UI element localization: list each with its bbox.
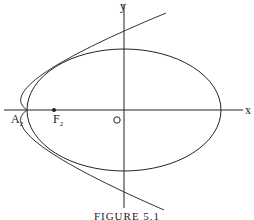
vertex-label: A2 bbox=[11, 113, 23, 128]
figure-caption: FIGURE 5.1 bbox=[0, 210, 254, 220]
parabola-curve bbox=[21, 13, 166, 210]
figure-canvas bbox=[0, 0, 254, 220]
x-axis-label: x bbox=[245, 104, 251, 116]
origin-marker bbox=[114, 117, 120, 123]
focus-label: F2 bbox=[53, 113, 63, 128]
y-axis-label: y bbox=[120, 0, 126, 12]
